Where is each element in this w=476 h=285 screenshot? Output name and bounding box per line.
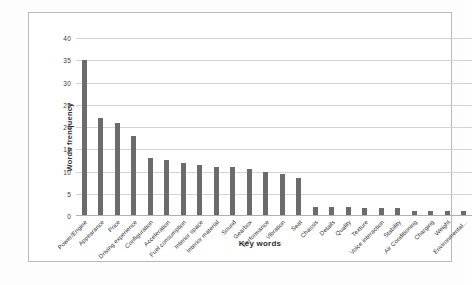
y-axis-tick-label: 5 [67, 190, 71, 197]
y-axis-tick-label: 10 [63, 168, 71, 175]
bar-slot [225, 38, 242, 216]
x-axis-title: Key words [29, 239, 451, 248]
y-axis-tick-label: 35 [63, 57, 71, 64]
y-axis-tick-label: 25 [63, 101, 71, 108]
x-axis-tick-label-text: Seat [290, 219, 303, 232]
bar-slot [258, 38, 275, 216]
bar-slot [241, 38, 258, 216]
bar-slot [93, 38, 110, 216]
bar-slot [109, 38, 126, 216]
bar-slot [340, 38, 357, 216]
y-axis-tick-label: 30 [63, 79, 71, 86]
y-axis-tick-label: 20 [63, 124, 71, 131]
x-axis-tick-label-text: Price [107, 219, 121, 233]
bar-slot [142, 38, 159, 216]
y-axis-tick-label: 40 [63, 35, 71, 42]
bar-slot [175, 38, 192, 216]
bar-slot [192, 38, 209, 216]
bar [131, 136, 136, 216]
bar-slot [291, 38, 308, 216]
bar-slot [76, 38, 93, 216]
y-axis-tick-label: 0 [67, 213, 71, 220]
y-axis-tick-label: 15 [63, 146, 71, 153]
bar-slot [373, 38, 390, 216]
chart-plot-frame: Words frenquency 0510152025303540 Power/… [28, 12, 452, 262]
bar-slot [357, 38, 374, 216]
bar-slot [274, 38, 291, 216]
bar-slot [307, 38, 324, 216]
bar-slot [423, 38, 440, 216]
bar-slot [324, 38, 341, 216]
x-axis-tick-label-text: Details [318, 219, 336, 237]
bar [82, 60, 87, 216]
bar-slot [390, 38, 407, 216]
y-axis-title: Words frenquency [65, 103, 74, 172]
bar-slot [126, 38, 143, 216]
bar-slot [456, 38, 473, 216]
